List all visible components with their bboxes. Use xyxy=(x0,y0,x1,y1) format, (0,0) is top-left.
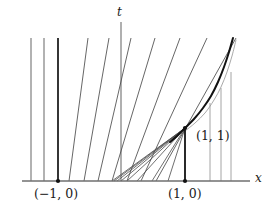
slanted-characteristic-2 xyxy=(98,38,131,181)
figure-canvas: t x (−1, 0) (1, 0) (1, 1) xyxy=(0,0,278,218)
t-axis-label: t xyxy=(117,6,122,18)
point-minus-one-zero-dot xyxy=(56,179,60,183)
fan-characteristic-6 xyxy=(152,128,185,181)
fan-characteristic-3 xyxy=(121,128,185,181)
point-one-one-dot xyxy=(183,126,187,130)
slanted-characteristic-6 xyxy=(156,38,236,181)
x-axis-label: x xyxy=(255,172,262,184)
slanted-characteristic-3 xyxy=(112,38,155,181)
slanted-characteristic-4 xyxy=(127,38,180,181)
slanted-characteristic-1 xyxy=(84,38,109,181)
shock-curve xyxy=(170,38,233,142)
point-label-one-one: (1, 1) xyxy=(196,130,230,143)
slanted-characteristic-0 xyxy=(69,38,88,181)
point-one-zero-dot xyxy=(183,179,187,183)
point-label-minus-one-zero: (−1, 0) xyxy=(34,188,78,201)
point-label-one-zero: (1, 0) xyxy=(168,188,202,201)
